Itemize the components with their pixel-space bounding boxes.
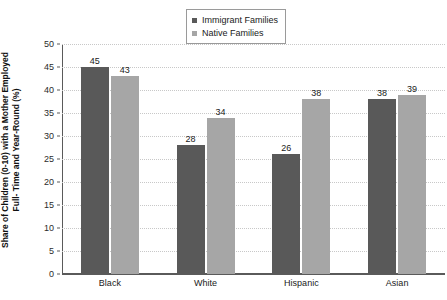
legend-item-native-families: Native Families (192, 27, 278, 39)
bar-chart: Immigrant Families Native Families Share… (0, 0, 447, 300)
y-axis-title-line-2: Full- Time and Year-Round (%) (11, 52, 22, 248)
y-axis-ticks: 05101520253035404550 (30, 44, 58, 274)
y-tick-label: 20 (44, 177, 54, 187)
bar (368, 99, 396, 274)
y-tick-mark (57, 67, 60, 68)
legend-label-immigrant-families: Immigrant Families (202, 15, 278, 25)
y-tick-label: 45 (44, 62, 54, 72)
x-axis-labels: BlackWhiteHispanicAsian (62, 278, 445, 296)
y-tick-mark (57, 228, 60, 229)
bar-value-label: 38 (311, 88, 321, 98)
x-axis-label: White (194, 278, 217, 288)
bar (81, 67, 109, 274)
bar (177, 145, 205, 274)
y-tick-label: 5 (49, 246, 54, 256)
y-tick-label: 15 (44, 200, 54, 210)
legend-label-native-families: Native Families (202, 28, 264, 38)
y-tick-label: 25 (44, 154, 54, 164)
y-tick-mark (57, 136, 60, 137)
y-tick-mark (57, 251, 60, 252)
y-tick-mark (57, 182, 60, 183)
bars-layer: 4543283426383839 (62, 44, 445, 274)
legend-item-immigrant-families: Immigrant Families (192, 14, 278, 26)
y-tick-label: 50 (44, 39, 54, 49)
bar (111, 76, 139, 274)
bar-value-label: 34 (216, 107, 226, 117)
legend-swatch-icon-immigrant-families (192, 18, 197, 23)
y-tick-mark (57, 90, 60, 91)
y-tick-label: 35 (44, 108, 54, 118)
bar (272, 154, 300, 274)
chart-legend: Immigrant Families Native Families (186, 9, 286, 44)
y-tick-mark (57, 159, 60, 160)
y-axis-title: Share of Children (0-10) with a Mother E… (0, 0, 22, 300)
bar (207, 118, 235, 274)
x-axis-label: Asian (386, 278, 409, 288)
y-tick-mark (57, 205, 60, 206)
bar-value-label: 26 (281, 143, 291, 153)
y-tick-mark (57, 44, 60, 45)
bar-value-label: 45 (90, 56, 100, 66)
plot-area: 4543283426383839 (62, 44, 445, 274)
bar-value-label: 38 (377, 88, 387, 98)
bar-value-label: 43 (120, 65, 130, 75)
bar (398, 95, 426, 274)
bar (302, 99, 330, 274)
bar-value-label: 28 (186, 134, 196, 144)
y-tick-label: 0 (49, 269, 54, 279)
y-tick-mark (57, 274, 60, 275)
y-tick-label: 10 (44, 223, 54, 233)
x-axis-label: Hispanic (284, 278, 319, 288)
y-tick-label: 30 (44, 131, 54, 141)
legend-swatch-icon-native-families (192, 31, 197, 36)
y-axis-title-line-1: Share of Children (0-10) with a Mother E… (0, 52, 11, 248)
y-tick-mark (57, 113, 60, 114)
y-tick-label: 40 (44, 85, 54, 95)
x-axis-label: Black (99, 278, 121, 288)
bar-value-label: 39 (407, 84, 417, 94)
